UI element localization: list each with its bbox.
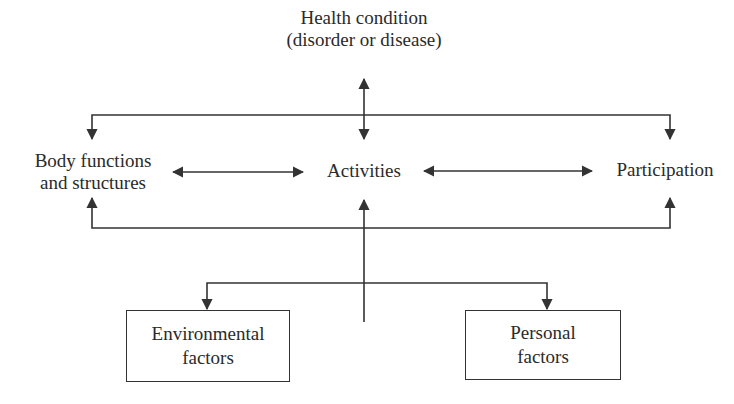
health-condition-label: Health condition (disorder or disease) [264,7,464,51]
personal-factors-box: Personal factors [465,310,621,380]
environmental-factors-box: Environmental factors [126,310,290,382]
body-functions-line2: and structures [8,172,178,194]
participation-label: Participation [600,159,730,181]
factors-branch-arrow [207,283,547,309]
personal-factors-line1: Personal [510,321,575,345]
connector-lines [0,0,734,404]
environmental-factors-line1: Environmental [152,322,265,346]
environmental-factors-line2: factors [152,346,265,370]
body-functions-label: Body functions and structures [8,150,178,194]
bottom-bus-arrow [92,198,670,228]
body-functions-line1: Body functions [8,150,178,172]
health-condition-line2: (disorder or disease) [264,29,464,51]
top-bus-arrow [92,115,670,139]
personal-factors-line2: factors [510,345,575,369]
health-condition-line1: Health condition [264,7,464,29]
activities-label: Activities [304,160,424,182]
